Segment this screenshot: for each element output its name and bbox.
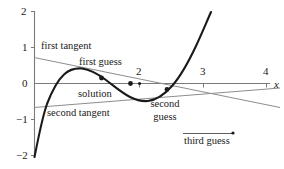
third-guess-pointer-dot xyxy=(231,131,234,134)
solution-label: solution xyxy=(78,89,112,100)
x-axis-label: x xyxy=(274,79,279,90)
x-tick-label-4: 4 xyxy=(263,66,269,77)
x-tick-label-2: 2 xyxy=(136,66,142,77)
first-guess-label: first guess xyxy=(79,57,122,68)
first-guess-point xyxy=(99,76,104,81)
x-tick-label-3: 3 xyxy=(200,66,206,77)
axis-marker-two-point xyxy=(138,82,141,85)
second-guess-label-line2: guess xyxy=(138,112,192,123)
third-guess-label: third guess xyxy=(184,136,230,147)
y-tick-label-2: 2 xyxy=(21,6,27,17)
solution-point xyxy=(128,81,133,86)
y-tick-label-minus-1: −1 xyxy=(16,114,28,125)
y-tick-label-0: 0 xyxy=(22,78,28,89)
y-tick-label-minus-2: −2 xyxy=(16,150,28,161)
figure-background xyxy=(0,0,284,169)
first-tangent-label: first tangent xyxy=(41,41,91,52)
second-guess-label-line1: second xyxy=(138,99,192,110)
second-tangent-label: second tangent xyxy=(47,108,110,119)
y-tick-label-1: 1 xyxy=(22,42,28,53)
second-guess-point xyxy=(165,87,170,92)
newton-method-figure xyxy=(0,0,284,169)
